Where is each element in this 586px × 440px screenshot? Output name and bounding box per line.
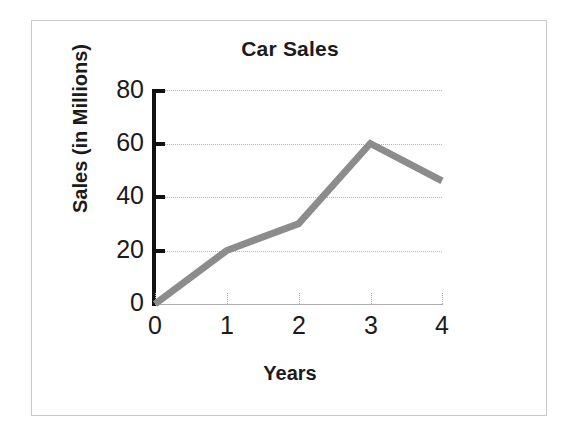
gridline-60 <box>155 144 442 145</box>
y-tick-60 <box>152 142 165 146</box>
x-tick-label-1: 1 <box>207 313 247 338</box>
x-axis-title: Years <box>32 362 548 385</box>
x-tick-label-2: 2 <box>279 313 319 338</box>
plot-area <box>155 90 442 304</box>
gridline-40 <box>155 197 442 198</box>
y-tick-label-40: 40 <box>84 183 144 208</box>
x-tick-2 <box>299 293 300 304</box>
y-tick-80 <box>152 89 165 93</box>
y-tick-label-80: 80 <box>84 77 144 102</box>
y-tick-label-60: 60 <box>84 130 144 155</box>
x-tick-4 <box>442 293 443 304</box>
gridline-80 <box>155 90 442 91</box>
x-tick-0 <box>155 293 156 304</box>
x-tick-3 <box>371 293 372 304</box>
x-tick-label-3: 3 <box>351 313 391 338</box>
x-axis-line <box>155 304 443 305</box>
chart-title: Car Sales <box>32 37 548 61</box>
x-tick-1 <box>227 293 228 304</box>
y-tick-20 <box>152 249 165 253</box>
chart-frame: Car Sales Sales (in Millions) Years 80 6… <box>31 20 547 416</box>
y-tick-label-0: 0 <box>84 290 144 315</box>
x-tick-label-4: 4 <box>422 313 462 338</box>
y-tick-label-20: 20 <box>84 237 144 262</box>
x-tick-label-0: 0 <box>135 313 175 338</box>
y-tick-40 <box>152 195 165 199</box>
gridline-20 <box>155 251 442 252</box>
